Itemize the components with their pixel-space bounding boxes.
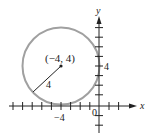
x-axis [9,102,132,110]
x-tick-label: −4 [54,112,65,123]
coordinate-plane: y x 0 −4 4 (−4, 4) 4 [0,0,152,139]
center-label: (−4, 4) [45,52,75,65]
y-axis-arrow-icon [97,16,102,24]
y-axis-label: y [95,5,101,16]
radius-label: 4 [46,79,51,90]
center-point [59,64,62,67]
x-axis-label: x [139,100,145,111]
y-tick-label: 4 [104,61,109,72]
x-axis-arrow-icon [129,104,137,109]
origin-label: 0 [92,107,97,118]
